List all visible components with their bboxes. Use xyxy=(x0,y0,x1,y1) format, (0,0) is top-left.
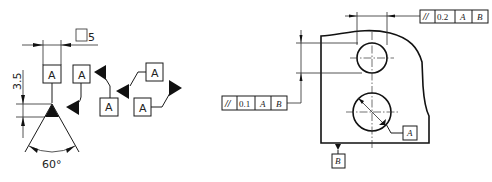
datum-variant-3: A xyxy=(116,63,163,99)
tolerance-value: 0.1 xyxy=(239,99,250,109)
datum-symbols-drawing: 5 A 3.5 60° A A A xyxy=(0,0,492,182)
datum-variant-4: A xyxy=(134,80,182,116)
arrow-head-icon xyxy=(300,73,303,81)
datum-letter: A xyxy=(48,69,56,82)
datum-ref-1: A xyxy=(459,12,466,22)
datum-triangle-icon xyxy=(169,80,182,96)
box-size-label: 5 xyxy=(88,31,95,44)
arrow-head-icon xyxy=(33,43,43,47)
datum-letter: A xyxy=(105,101,113,114)
height-label: 3.5 xyxy=(11,73,24,91)
tolerance-value: 0.2 xyxy=(437,12,448,22)
arrow-head-icon xyxy=(66,146,75,153)
datum-variant-2: A xyxy=(94,65,118,116)
datum-triangle-icon xyxy=(116,84,129,99)
datum-triangle-icon xyxy=(335,144,341,150)
square-symbol-icon xyxy=(76,29,87,41)
datum-triangle-icon xyxy=(45,104,59,117)
arrow-head-icon xyxy=(387,15,395,18)
datum-letter: A xyxy=(78,69,86,82)
angle-label: 60° xyxy=(42,158,62,171)
datum-symbol-construction: 5 A 3.5 60° xyxy=(11,29,98,171)
leader-line xyxy=(104,76,110,98)
feature-control-frame-left: // 0.1 A B xyxy=(222,96,287,110)
arrow-head-icon xyxy=(21,117,25,126)
arrow-head-icon xyxy=(61,43,71,47)
datum-letter: B xyxy=(335,156,341,166)
datum-variant-1: A xyxy=(66,65,90,115)
angle-leg-line xyxy=(25,104,52,152)
datum-letter: A xyxy=(406,128,413,138)
datum-triangle-icon xyxy=(66,100,79,115)
datum-ref-1: A xyxy=(259,99,266,109)
datum-triangle-icon xyxy=(94,65,106,80)
datum-letter: A xyxy=(139,102,147,115)
leader-line xyxy=(151,93,170,107)
arrow-head-icon xyxy=(29,146,38,153)
arrow-head-icon xyxy=(300,35,303,43)
part-drawing: A B xyxy=(287,12,429,168)
datum-ref-2: B xyxy=(276,99,282,109)
datum-ref-2: B xyxy=(477,12,483,22)
leader-line xyxy=(386,124,403,133)
arrow-head-icon xyxy=(349,15,357,18)
arrow-head-icon xyxy=(21,95,25,104)
feature-control-frame-top: // 0.2 A B xyxy=(420,10,488,23)
datum-letter: A xyxy=(151,67,159,80)
leader-line xyxy=(130,72,146,86)
